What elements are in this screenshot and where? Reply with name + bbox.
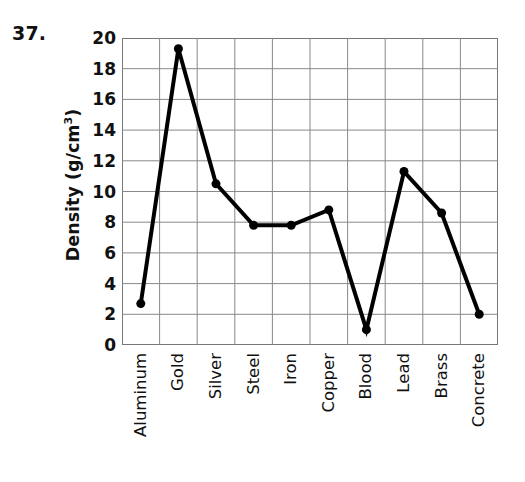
x-tick-cell: Iron xyxy=(272,345,310,475)
y-tick-label: 18 xyxy=(82,59,116,79)
x-tick-cell: Lead xyxy=(385,345,423,475)
x-tick-cell: Brass xyxy=(423,345,461,475)
x-tick-cell: Concrete xyxy=(460,345,498,475)
x-axis-tick-labels: AluminumGoldSilverSteelIronCopperBloodLe… xyxy=(122,345,498,475)
x-tick-label: Lead xyxy=(396,353,413,393)
series-line xyxy=(141,49,479,330)
data-point-marker: Silver: 10.5 xyxy=(212,179,221,188)
y-tick-label: 8 xyxy=(82,212,116,232)
x-tick-label: Silver xyxy=(208,353,225,399)
x-tick-cell: Aluminum xyxy=(122,345,160,475)
x-tick-cell: Gold xyxy=(160,345,198,475)
data-point-marker: Iron: 7.8 xyxy=(287,221,296,230)
data-point-marker: Aluminum: 2.7 xyxy=(136,299,145,308)
data-point-marker: Brass: 8.6 xyxy=(437,208,446,217)
plot-area: Aluminum: 2.7Gold: 19.3Silver: 10.5Steel… xyxy=(122,38,498,345)
x-tick-label: Blood xyxy=(358,353,375,400)
data-point-marker: Steel: 7.8 xyxy=(249,221,258,230)
x-tick-cell: Silver xyxy=(197,345,235,475)
y-tick-label: 4 xyxy=(82,274,116,294)
x-tick-label: Steel xyxy=(245,353,262,395)
data-point-marker: Gold: 19.3 xyxy=(174,44,183,53)
density-line-series: Aluminum: 2.7Gold: 19.3Silver: 10.5Steel… xyxy=(122,38,498,345)
y-tick-label: 20 xyxy=(82,28,116,48)
x-tick-cell: Steel xyxy=(235,345,273,475)
x-tick-label: Copper xyxy=(321,353,338,413)
data-point-marker: Blood: 1 xyxy=(362,325,371,334)
y-tick-label: 10 xyxy=(82,182,116,202)
x-tick-label: Iron xyxy=(283,353,300,385)
density-chart-figure: 37. Density (g/cm3) 20181614121086420 Al… xyxy=(0,0,525,482)
x-tick-cell: Blood xyxy=(348,345,386,475)
y-tick-label: 0 xyxy=(82,335,116,355)
x-tick-label: Concrete xyxy=(471,353,488,427)
y-tick-label: 2 xyxy=(82,304,116,324)
y-tick-label: 16 xyxy=(82,89,116,109)
x-tick-cell: Copper xyxy=(310,345,348,475)
y-tick-label: 12 xyxy=(82,151,116,171)
x-tick-label: Aluminum xyxy=(133,353,150,437)
data-point-marker: Concrete: 2 xyxy=(475,310,484,319)
data-point-marker: Copper: 8.8 xyxy=(324,205,333,214)
x-tick-label: Brass xyxy=(433,353,450,398)
data-point-marker: Lead: 11.3 xyxy=(400,167,409,176)
y-tick-label: 14 xyxy=(82,120,116,140)
y-axis-title-superscript: 3 xyxy=(62,117,75,125)
y-tick-label: 6 xyxy=(82,243,116,263)
problem-number: 37. xyxy=(12,22,46,44)
y-axis-tick-labels: 20181614121086420 xyxy=(78,38,116,345)
x-tick-label: Gold xyxy=(170,353,187,391)
